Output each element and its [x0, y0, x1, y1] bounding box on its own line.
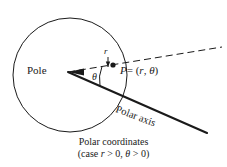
caption-mid: > 0,: [105, 148, 126, 159]
point-p-close: ): [155, 64, 159, 76]
caption-pre: (case: [78, 148, 101, 159]
radius-label: r: [104, 47, 108, 56]
angle-label: θ: [92, 72, 97, 82]
polar-coordinates-figure: Pole r θ P= (r, θ) Polar axis Polar coor…: [0, 0, 227, 167]
point-p-equals: = (: [127, 64, 140, 76]
polar-axis-ray: [68, 72, 207, 133]
caption-line-2: (case r > 0, θ > 0): [0, 148, 227, 160]
point-p-marker: [110, 62, 115, 67]
point-p-label: P= (r, θ): [120, 65, 158, 76]
angle-arc: [99, 67, 102, 87]
pole-label: Pole: [27, 65, 47, 76]
point-p-symbol: P: [120, 64, 127, 76]
caption-post: > 0): [130, 148, 149, 159]
figure-caption: Polar coordinates (case r > 0, θ > 0): [0, 136, 227, 160]
caption-line-1: Polar coordinates: [0, 136, 227, 148]
